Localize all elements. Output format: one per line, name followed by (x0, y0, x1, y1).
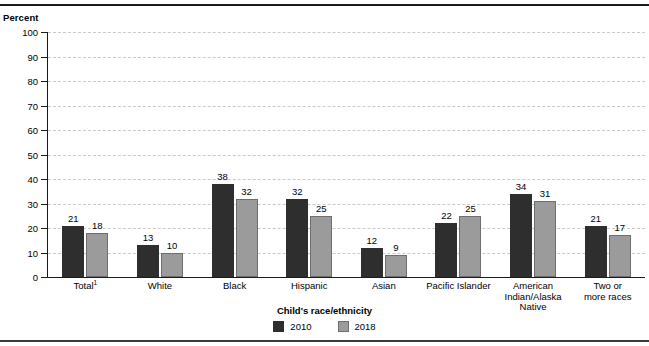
bar-value-label: 32 (230, 187, 264, 197)
bar-value-label: 17 (603, 223, 637, 233)
y-tick-label: 60 (8, 126, 38, 135)
legend-swatch (338, 321, 349, 332)
legend-items: 20102018 (0, 321, 649, 332)
bar (86, 233, 108, 277)
x-category-label: Two ormore races (570, 281, 645, 302)
legend-label: 2010 (290, 321, 311, 332)
bar (62, 226, 84, 277)
gridline (48, 57, 645, 58)
bar-value-label: 18 (80, 221, 114, 231)
legend-label: 2018 (355, 321, 376, 332)
top-divider (0, 4, 649, 6)
bar (459, 216, 481, 277)
legend-item[interactable]: 2010 (273, 321, 311, 332)
bar-value-label: 38 (206, 172, 240, 182)
bar-value-label: 10 (155, 241, 189, 251)
bar (609, 235, 631, 277)
gridline (48, 155, 645, 156)
y-tick-label: 90 (8, 52, 38, 61)
bar (212, 184, 234, 277)
y-tick-label: 40 (8, 175, 38, 184)
y-tick-label: 20 (8, 224, 38, 233)
bottom-divider (0, 340, 649, 342)
y-tick-label: 30 (8, 199, 38, 208)
bar (161, 253, 183, 278)
bar-value-label: 32 (280, 187, 314, 197)
y-axis-line (47, 32, 48, 278)
gridline (48, 179, 645, 180)
gridline (48, 81, 645, 82)
y-tick-label: 80 (8, 77, 38, 86)
x-category-label: Total1 (48, 281, 123, 292)
bar-value-label: 25 (304, 204, 338, 214)
x-category-label: Hispanic (272, 281, 347, 292)
legend-item[interactable]: 2018 (338, 321, 376, 332)
x-category-label: Pacific Islander (421, 281, 496, 292)
gridline (48, 130, 645, 131)
figure-header-cutoff (2, 0, 522, 3)
bar (510, 194, 532, 277)
y-tick-label: 0 (8, 273, 38, 282)
legend: Child's race/ethnicity 20102018 (0, 305, 649, 332)
x-category-label: Black (197, 281, 272, 292)
bar-value-label: 25 (453, 204, 487, 214)
chart-figure: Percent 0102030405060708090100 211813103… (0, 0, 649, 346)
gridline (48, 32, 645, 33)
bar (236, 199, 258, 277)
bar-value-label: 9 (379, 243, 413, 253)
gridline (48, 106, 645, 107)
legend-title: Child's race/ethnicity (0, 305, 649, 316)
y-tick-label: 100 (8, 28, 38, 37)
x-category-label: Asian (347, 281, 422, 292)
x-category-label: White (123, 281, 198, 292)
bar (385, 255, 407, 277)
y-tick-label: 50 (8, 150, 38, 159)
bar (534, 201, 556, 277)
y-tick-label: 10 (8, 248, 38, 257)
y-axis-title: Percent (3, 12, 39, 23)
y-tick-label: 70 (8, 101, 38, 110)
bar-value-label: 21 (579, 214, 613, 224)
legend-swatch (273, 321, 284, 332)
x-axis-line (47, 277, 645, 278)
bar-value-label: 31 (528, 189, 562, 199)
bar (435, 223, 457, 277)
bar (310, 216, 332, 277)
